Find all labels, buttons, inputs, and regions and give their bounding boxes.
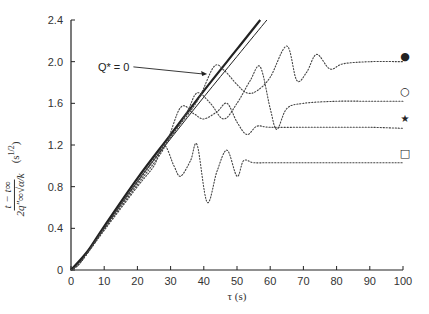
series-2 [71,46,403,270]
y-tick-label: 2.0 [48,56,63,68]
annotation: Q* = 0 [98,61,207,76]
x-tick-label: 40 [198,275,210,287]
marker-star-icon: ★ [401,113,410,124]
x-tick-label: 30 [164,275,176,287]
x-tick-label: 90 [364,275,376,287]
y-tick-label: 0.4 [48,222,63,234]
x-tick-label: 20 [131,275,143,287]
arrow-head-icon [201,71,207,76]
y-tick-label: 2.4 [48,14,63,26]
x-tick-label: 10 [98,275,110,287]
annotation-arrow [133,67,204,74]
series-markers: ●○★□ [400,50,410,160]
series-4 [71,103,403,270]
y-axis-numerator: t − t∞ [2,179,15,210]
annotation-label: Q* = 0 [98,61,130,73]
y-axis-units: (s1/2) [7,141,21,163]
x-axis-title: τ (s) [228,290,247,303]
marker-filled-circle-icon: ● [400,50,410,63]
x-tick-label: 0 [68,275,74,287]
y-axis-title: t − t∞ 2q″∞√α/k (s1/2) [2,100,26,260]
x-tick-label: 70 [297,275,309,287]
marker-open-circle-icon: ○ [400,85,410,98]
y-axis-fraction: t − t∞ 2q″∞√α/k [2,171,26,218]
marker-open-square-icon: □ [400,147,410,160]
x-tick-label: 100 [394,275,412,287]
x-tick-label: 50 [231,275,243,287]
chart-canvas: 010203040506070809010000.40.81.21.62.02.… [0,0,429,314]
y-axis-denominator: 2q″∞√α/k [15,171,27,218]
series-3 [71,66,403,270]
y-tick-label: 0 [57,264,63,276]
x-tick-label: 60 [264,275,276,287]
x-tick-label: 80 [330,275,342,287]
y-tick-label: 1.6 [48,97,63,109]
axes: 010203040506070809010000.40.81.21.62.02.… [48,14,412,287]
data-series [71,20,403,270]
y-tick-label: 1.2 [48,139,63,151]
y-tick-label: 0.8 [48,181,63,193]
